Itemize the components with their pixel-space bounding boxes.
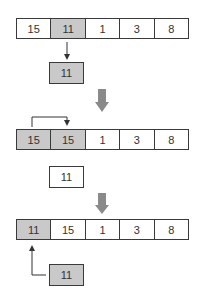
- insert-arrow-icon: [32, 248, 46, 275]
- step-arrow-icon: [95, 193, 109, 214]
- connectors: [0, 0, 201, 301]
- shift-right-arrow-icon: [32, 117, 67, 127]
- step-arrow-icon: [95, 89, 109, 112]
